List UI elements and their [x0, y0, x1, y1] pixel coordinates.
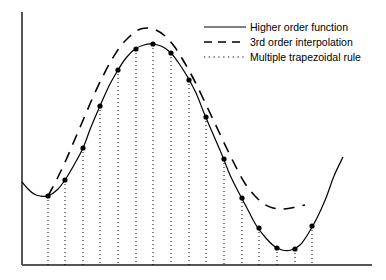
data-point-marker [97, 103, 102, 108]
legend-swatch-solid-line [203, 21, 247, 33]
data-point-marker [150, 41, 155, 46]
data-point-marker [309, 223, 314, 228]
data-point-marker [256, 225, 261, 230]
higher-order-function-path [22, 44, 343, 251]
function-curve [22, 44, 343, 251]
data-point-marker [186, 77, 191, 82]
data-point-marker [133, 46, 138, 51]
legend-item-dashed: 3rd order interpolation [203, 35, 381, 49]
legend-swatch-dotted-line [203, 51, 247, 63]
legend-label-higher-order-function: Higher order function [247, 21, 348, 33]
data-point-marker [168, 50, 173, 55]
legend-label-third-order-interpolation: 3rd order interpolation [247, 36, 353, 48]
data-point-marker [45, 193, 50, 198]
data-point-marker [80, 145, 85, 150]
data-point-marker [239, 195, 244, 200]
data-point-marker [203, 114, 208, 119]
legend-label-multiple-trapezoidal-rule: Multiple trapezoidal rule [247, 51, 361, 63]
data-point-marker [62, 177, 67, 182]
legend-item-solid: Higher order function [203, 20, 381, 34]
data-point-marker [221, 156, 226, 161]
chart-figure: Higher order function 3rd order interpol… [0, 0, 386, 280]
data-point-markers [45, 41, 314, 251]
trapezoidal-rule-lines [48, 44, 312, 265]
legend-swatch-dashed-line [203, 36, 247, 48]
data-point-marker [274, 245, 279, 250]
chart-legend: Higher order function 3rd order interpol… [203, 20, 381, 65]
data-point-marker [115, 67, 120, 72]
data-point-marker [292, 246, 297, 251]
legend-item-dotted: Multiple trapezoidal rule [203, 50, 381, 64]
